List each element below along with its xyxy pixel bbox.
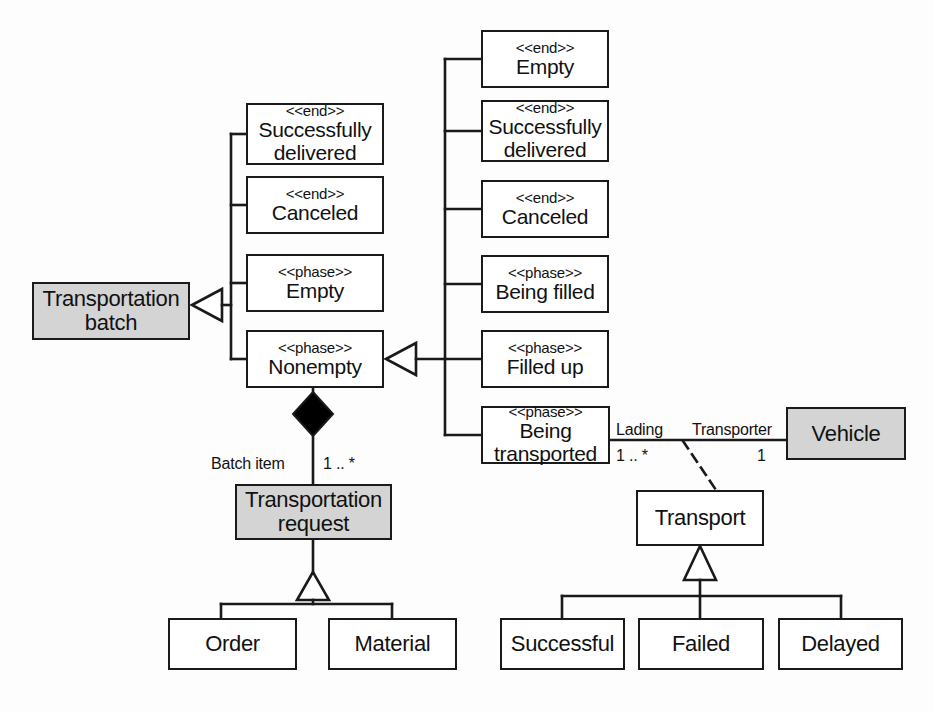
stereotype-label: <<end>> — [286, 103, 345, 119]
class-box-transport[interactable]: Transport — [636, 490, 764, 546]
class-name-label: Filled up — [507, 356, 584, 379]
uml-class-diagram: Transportation batch<<end>>Successfully … — [0, 0, 933, 713]
class-box-order[interactable]: Order — [168, 618, 297, 670]
edge-label-transporter-multiplicity: 1 — [757, 447, 766, 465]
class-name-label: Canceled — [272, 202, 358, 225]
class-box-successful[interactable]: Successful — [500, 618, 625, 670]
class-name-label: Order — [205, 632, 260, 656]
class-box-batch-empty[interactable]: <<phase>>Empty — [246, 254, 384, 312]
diagram-edges — [0, 0, 933, 713]
stereotype-label: <<end>> — [516, 100, 575, 116]
class-box-req-successfully-delivered[interactable]: <<end>>Successfully delivered — [481, 100, 609, 162]
class-name-label: Nonempty — [268, 356, 361, 379]
generalization-transport-subtypes — [562, 546, 841, 618]
class-box-req-being-transported[interactable]: <<phase>>Being transported — [481, 406, 610, 464]
class-box-req-filled-up[interactable]: <<phase>>Filled up — [481, 330, 609, 388]
class-box-batch-successfully-delivered[interactable]: <<end>>Successfully delivered — [246, 103, 384, 165]
class-box-req-empty[interactable]: <<end>>Empty — [481, 30, 609, 88]
class-name-label: Material — [355, 632, 431, 656]
class-box-req-canceled[interactable]: <<end>>Canceled — [481, 180, 609, 238]
generalization-request-subtypes — [221, 540, 392, 618]
association-class-link — [683, 441, 716, 490]
edge-label-batch-item-role: Batch item — [211, 455, 285, 473]
stereotype-label: <<end>> — [286, 186, 345, 202]
stereotype-label: <<phase>> — [508, 265, 582, 281]
stereotype-label: <<phase>> — [508, 340, 582, 356]
stereotype-label: <<phase>> — [508, 404, 582, 420]
class-box-batch-canceled[interactable]: <<end>>Canceled — [246, 176, 384, 234]
class-box-req-being-filled[interactable]: <<phase>>Being filled — [481, 255, 609, 313]
class-name-label: Transportation request — [245, 488, 382, 536]
class-box-material[interactable]: Material — [328, 618, 457, 670]
class-box-transportation-request[interactable]: Transportation request — [235, 484, 392, 540]
stereotype-label: <<phase>> — [278, 340, 352, 356]
class-name-label: Successfully delivered — [488, 116, 601, 161]
class-name-label: Empty — [516, 56, 574, 79]
class-name-label: Canceled — [502, 206, 588, 229]
class-box-failed[interactable]: Failed — [638, 618, 764, 670]
stereotype-label: <<end>> — [516, 190, 575, 206]
stereotype-label: <<phase>> — [278, 264, 352, 280]
stereotype-label: <<end>> — [516, 40, 575, 56]
class-name-label: Vehicle — [812, 422, 881, 446]
class-name-label: Transportation batch — [43, 287, 180, 335]
class-name-label: Transport — [655, 506, 746, 530]
class-name-label: Being transported — [494, 420, 597, 465]
class-box-batch-nonempty[interactable]: <<phase>>Nonempty — [246, 330, 384, 388]
class-name-label: Delayed — [801, 632, 880, 656]
class-box-transportation-batch[interactable]: Transportation batch — [32, 282, 190, 340]
edge-label-lading-role: Lading — [616, 421, 663, 439]
edge-label-lading-multiplicity: 1 .. * — [616, 447, 648, 465]
class-name-label: Failed — [672, 632, 730, 656]
edge-label-batch-item-multiplicity: 1 .. * — [323, 455, 355, 473]
class-name-label: Empty — [286, 280, 344, 303]
class-box-delayed[interactable]: Delayed — [778, 618, 903, 670]
class-name-label: Successful — [511, 632, 614, 656]
generalization-batch-states — [192, 134, 246, 359]
class-name-label: Successfully delivered — [258, 119, 371, 164]
class-name-label: Being filled — [495, 281, 594, 304]
class-box-vehicle[interactable]: Vehicle — [786, 407, 906, 460]
edge-label-transporter-role: Transporter — [692, 421, 772, 439]
generalization-nonempty-states — [386, 59, 481, 435]
